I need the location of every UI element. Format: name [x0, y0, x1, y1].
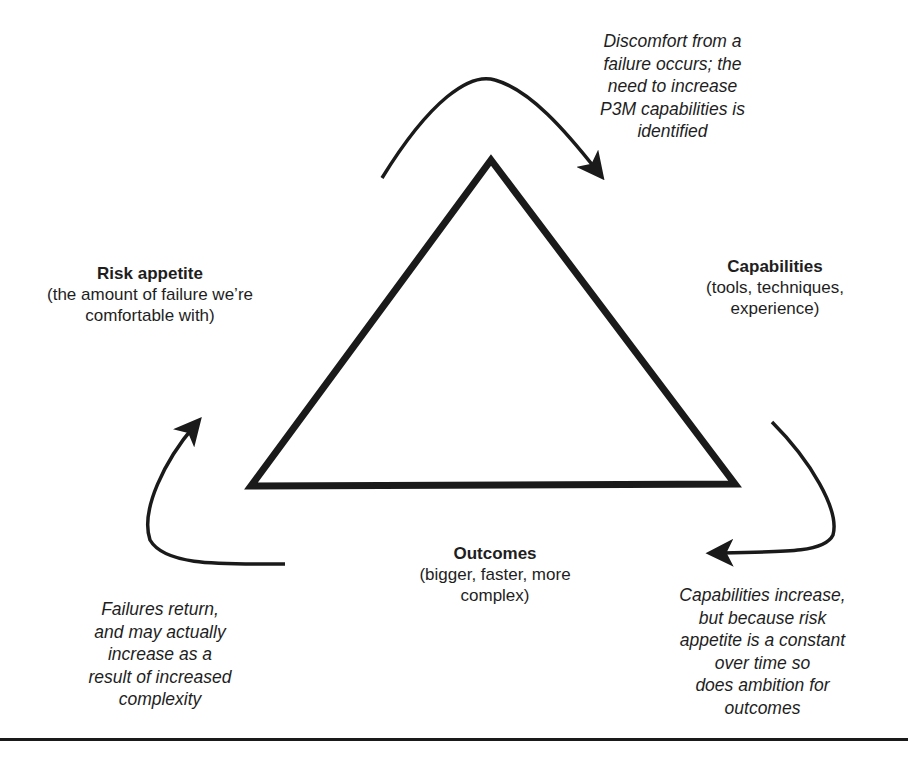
arrow-outcomes-to-risk: [148, 425, 285, 564]
capabilities-title: Capabilities: [680, 256, 870, 277]
risk-appetite-subtitle: (the amount of failure we’re comfortable…: [30, 284, 270, 326]
node-outcomes: Outcomes (bigger, faster, more complex): [410, 543, 580, 606]
node-risk-appetite: Risk appetite (the amount of failure we’…: [30, 263, 270, 326]
outcomes-title: Outcomes: [410, 543, 580, 564]
capabilities-subtitle: (tools, techniques, experience): [680, 277, 870, 319]
triangle: [251, 160, 735, 486]
bottom-rule: [0, 738, 908, 741]
risk-appetite-title: Risk appetite: [30, 263, 270, 284]
node-capabilities: Capabilities (tools, techniques, experie…: [680, 256, 870, 319]
note-capabilities-to-outcomes: Capabilities increase, but because risk …: [655, 584, 870, 719]
note-outcomes-to-risk: Failures return, and may actually increa…: [60, 598, 260, 711]
outcomes-subtitle: (bigger, faster, more complex): [410, 564, 580, 606]
note-risk-to-capabilities: Discomfort from a failure occurs; the ne…: [575, 30, 770, 143]
